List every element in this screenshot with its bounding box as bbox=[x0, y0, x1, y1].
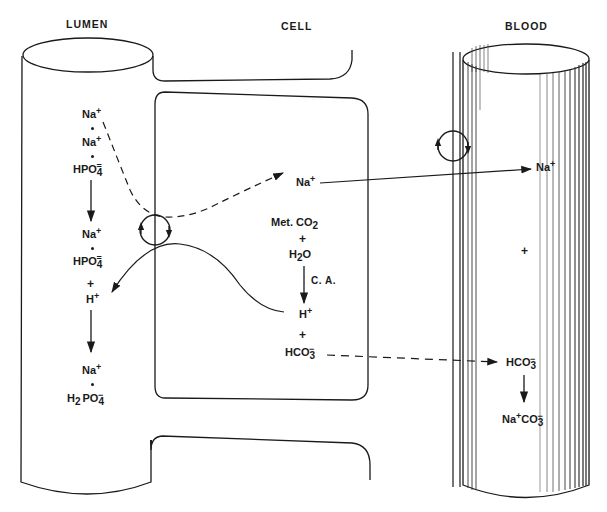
cell-met-co2: Met. CO2 bbox=[271, 216, 318, 228]
lumen-bond-dot-1 bbox=[91, 127, 94, 130]
label-lumen: LUMEN bbox=[66, 18, 108, 30]
lumen-bond-dot-4 bbox=[91, 383, 94, 386]
cell-plus-2: + bbox=[299, 329, 306, 341]
upper-tight-junction bbox=[153, 50, 352, 81]
pathway-hco3-cell-to-blood bbox=[327, 355, 497, 362]
lumen-na-3: Na+ bbox=[82, 228, 101, 240]
lumen-bond-dot-2 bbox=[91, 155, 94, 158]
lumen-hpo4-1: HPO4= bbox=[73, 163, 102, 175]
label-blood: BLOOD bbox=[505, 20, 548, 32]
cell-body bbox=[155, 92, 368, 400]
pathway-na-lumen-to-cell bbox=[103, 122, 283, 217]
blood-na-co3: Na+CO3− bbox=[502, 413, 543, 425]
lower-tight-junction bbox=[151, 436, 370, 480]
label-cell: CELL bbox=[281, 20, 312, 32]
cell-na-ion: Na+ bbox=[296, 176, 315, 188]
lumen-plus: + bbox=[87, 278, 94, 290]
blood-na-ion: Na+ bbox=[536, 161, 555, 173]
pathway-na-cell-to-blood bbox=[320, 169, 531, 183]
blood-plus: + bbox=[521, 245, 528, 257]
lumen-h2po4: H2PO4− bbox=[67, 392, 103, 404]
lumen-top-ellipse bbox=[23, 38, 153, 72]
cell-h-ion: H+ bbox=[299, 308, 312, 320]
basement-membrane bbox=[453, 52, 460, 487]
blood-hco3: HCO3− bbox=[506, 356, 535, 368]
lumen-hpo4-2: HPO4= bbox=[73, 255, 102, 267]
cell-plus-1: + bbox=[299, 233, 306, 245]
pathway-h-cell-to-lumen bbox=[112, 244, 284, 312]
lumen-na-1: Na+ bbox=[82, 108, 101, 120]
lumen-h-ion: H+ bbox=[86, 293, 99, 305]
lumen-bond-dot-3 bbox=[91, 247, 94, 250]
cell-hco3: HCO3− bbox=[285, 346, 314, 358]
lumen-cylinder bbox=[21, 38, 352, 494]
lumen-body bbox=[21, 56, 151, 494]
lumen-na-2: Na+ bbox=[82, 136, 101, 148]
cell-enzyme-label: C. A. bbox=[311, 275, 336, 286]
cell-h2o: H2O bbox=[289, 248, 311, 260]
lumen-na-4: Na+ bbox=[82, 364, 101, 376]
